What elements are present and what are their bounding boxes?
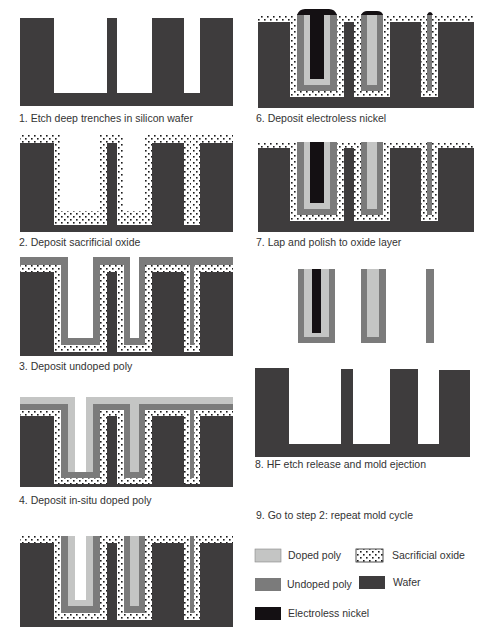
step-6-diagram	[258, 9, 474, 108]
step-5-diagram	[20, 536, 233, 627]
step-9-caption: 9. Go to step 2: repeat mold cycle	[256, 509, 413, 521]
legend-swatch-undoped-poly	[255, 578, 281, 591]
legend-swatch-doped-poly	[255, 549, 281, 562]
step-3-caption: 3. Deposit undoped poly	[19, 360, 132, 372]
legend-label-doped-poly: Doped poly	[288, 549, 341, 561]
step-6-caption: 6. Deposit electroless nickel	[256, 112, 386, 124]
step-7-caption: 7. Lap and polish to oxide layer	[256, 236, 401, 248]
step-8-caption: 8. HF etch release and mold ejection	[255, 458, 426, 470]
step-1-diagram	[20, 18, 233, 106]
legend-label-undoped-poly: Undoped poly	[287, 578, 352, 590]
step-4-caption: 4. Deposit in-situ doped poly	[19, 494, 152, 506]
legend-swatch-oxide	[356, 549, 383, 562]
legend-swatch-wafer	[359, 576, 385, 589]
legend-label-nickel: Electroless nickel	[288, 607, 369, 619]
step-2-caption: 2. Deposit sacrificial oxide	[19, 236, 140, 248]
legend-label-oxide: Sacrificial oxide	[392, 549, 465, 561]
step-4-diagram	[20, 397, 233, 487]
legend-swatch-nickel	[255, 607, 281, 620]
step-7-diagram	[258, 142, 474, 232]
step-8-mold-wafer	[255, 368, 470, 457]
step-8-released-parts	[298, 269, 434, 343]
process-flow-diagram	[0, 0, 482, 634]
step-2-diagram	[20, 135, 233, 232]
step-3-diagram	[20, 257, 233, 356]
legend-label-wafer: Wafer	[393, 576, 421, 588]
step-1-caption: 1. Etch deep trenches in silicon wafer	[19, 112, 193, 124]
